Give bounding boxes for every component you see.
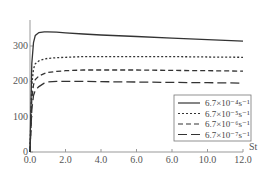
axes: 01002003000.02.04.06.06.010.012.0St [13, 20, 258, 165]
x-tick-label: 12.0 [234, 154, 252, 165]
x-tick-label: 2.0 [59, 154, 72, 165]
y-tick-label: 100 [13, 111, 28, 122]
legend-label: 6.7×10⁻⁴s⁻¹ [205, 98, 250, 108]
x-tick-label: 6.0 [166, 154, 179, 165]
y-tick-label: 300 [13, 40, 28, 51]
x-tick-label: 0.0 [24, 154, 37, 165]
y-tick-label: 200 [13, 75, 28, 86]
legend-label: 6.7×10⁻⁶s⁻¹ [205, 119, 250, 129]
legend-label: 6.7×10⁻⁵s⁻¹ [205, 109, 250, 119]
x-axis-label: St [249, 141, 258, 152]
line-chart: 01002003000.02.04.06.06.010.012.0St 6.7×… [0, 0, 269, 177]
legend: 6.7×10⁻⁴s⁻¹6.7×10⁻⁵s⁻¹6.7×10⁻⁶s⁻¹6.7×10⁻… [174, 95, 251, 141]
legend-label: 6.7×10⁻⁷s⁻¹ [205, 130, 250, 140]
x-tick-label: 10.0 [199, 154, 217, 165]
x-tick-label: 6.0 [130, 154, 143, 165]
x-tick-label: 4.0 [95, 154, 108, 165]
